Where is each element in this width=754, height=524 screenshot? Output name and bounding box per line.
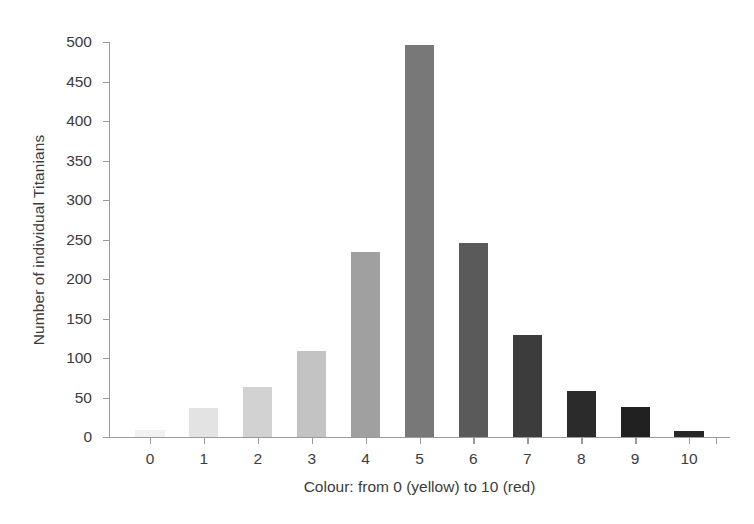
y-axis-tick-label: 200 [46, 271, 92, 287]
x-axis-tick-label: 6 [443, 450, 503, 468]
y-axis-tick-label: 250 [46, 232, 92, 248]
y-axis-tick-label: 50 [46, 390, 92, 406]
y-axis-title: Number of individual Titanians [26, 20, 52, 460]
y-axis-tick-label: 100 [46, 350, 92, 366]
x-axis-tick-label: 1 [174, 450, 234, 468]
bar [459, 243, 488, 437]
bar [189, 408, 218, 437]
x-axis-tick-label: 2 [228, 450, 288, 468]
x-axis-tick [473, 438, 474, 444]
x-axis-end-tick [716, 438, 717, 444]
x-axis-tick [420, 438, 421, 444]
bar [567, 391, 596, 437]
x-axis-tick-label: 3 [282, 450, 342, 468]
y-axis-tick-label: 0 [46, 429, 92, 445]
x-axis-tick [258, 438, 259, 444]
bar [297, 351, 326, 437]
y-axis-tick-label: 500 [46, 34, 92, 50]
y-axis-tick-label: 150 [46, 311, 92, 327]
bar [135, 430, 164, 437]
y-axis-line [109, 42, 110, 438]
y-axis-tick [103, 398, 109, 399]
bar [513, 335, 542, 437]
y-axis-tick [103, 279, 109, 280]
x-axis-title: Colour: from 0 (yellow) to 10 (red) [109, 478, 730, 496]
x-axis-tick-label: 7 [497, 450, 557, 468]
x-axis-tick [366, 438, 367, 444]
y-axis-tick [103, 358, 109, 359]
y-axis-tick [103, 161, 109, 162]
x-axis-tick-label: 10 [659, 450, 719, 468]
x-axis-tick-label: 4 [336, 450, 396, 468]
y-axis-tick [103, 42, 109, 43]
bar [351, 252, 380, 437]
x-axis-tick-label: 9 [605, 450, 665, 468]
x-axis-tick [527, 438, 528, 444]
bar [405, 45, 434, 437]
x-axis-tick-label: 8 [551, 450, 611, 468]
bar [621, 407, 650, 437]
x-axis-tick [635, 438, 636, 444]
x-axis-tick [312, 438, 313, 444]
y-axis-tick [103, 121, 109, 122]
y-axis-tick-label: 300 [46, 192, 92, 208]
x-axis-tick [689, 438, 690, 444]
bar [674, 431, 703, 437]
y-axis-tick [103, 82, 109, 83]
y-axis-tick [103, 319, 109, 320]
x-axis-tick-label: 0 [120, 450, 180, 468]
bar [243, 387, 272, 437]
x-axis-tick [150, 438, 151, 444]
x-axis-tick [204, 438, 205, 444]
y-axis-tick [103, 240, 109, 241]
x-axis-tick-label: 5 [390, 450, 450, 468]
y-axis-tick [103, 437, 109, 438]
y-axis-tick-label: 350 [46, 153, 92, 169]
plot-area: 012345678910 [109, 42, 730, 438]
y-axis-tick [103, 200, 109, 201]
bar-chart: 050100150200250300350400450500 Number of… [0, 0, 754, 524]
y-axis-tick-label: 400 [46, 113, 92, 129]
x-axis-tick [581, 438, 582, 444]
y-axis-tick-label: 450 [46, 74, 92, 90]
